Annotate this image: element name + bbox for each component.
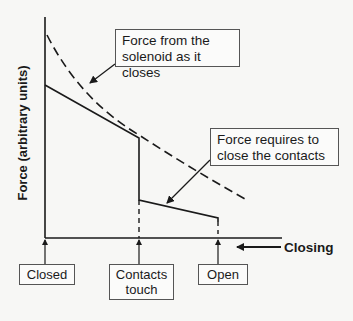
solenoid-force-callout: Force from the solenoid as it closes — [115, 29, 240, 67]
closing-direction-label: Closing — [284, 240, 334, 255]
solenoid-callout-line-2: solenoid as it closes — [122, 49, 233, 81]
required-force-curve — [45, 85, 218, 222]
solenoid-callout-arrow — [90, 64, 115, 83]
required-force-callout: Force requires to close the contacts — [210, 128, 339, 166]
contacts-touch-line-1: Contacts — [116, 267, 167, 282]
required-callout-line-1: Force requires to — [217, 132, 319, 148]
y-axis-label: Force (arbitrary units) — [15, 65, 30, 200]
solenoid-callout-line-1: Force from the — [122, 33, 210, 49]
open-position-label: Open — [198, 264, 248, 285]
contacts-touch-line-2: touch — [126, 282, 158, 297]
required-callout-line-2: close the contacts — [217, 148, 325, 164]
closed-position-label: Closed — [19, 264, 75, 285]
contacts-touch-position-label: Contacts touch — [109, 264, 174, 300]
